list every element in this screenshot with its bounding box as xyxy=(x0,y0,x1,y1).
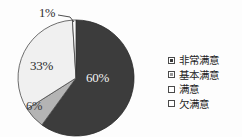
legend-label-less-satisfied: 欠满意 xyxy=(179,99,209,110)
legend-label-basically-satisfied: 基本满意 xyxy=(179,70,219,81)
chart-legend: 非常满意 基本满意 满意 欠满意 xyxy=(168,53,242,111)
legend-item-satisfied[interactable]: 满意 xyxy=(168,82,242,97)
pie-label-less-satisfied: 1% xyxy=(39,6,55,21)
pie-chart-plot-area: 60% 33% 6% 1% xyxy=(0,0,160,137)
legend-label-satisfied: 满意 xyxy=(179,84,199,95)
pie-chart-figure: 60% 33% 6% 1% 非常满意 基本满意 满意 欠满意 xyxy=(0,0,242,137)
legend-item-very-satisfied[interactable]: 非常满意 xyxy=(168,53,242,68)
pie-chart-svg xyxy=(0,0,160,137)
legend-swatch-icon-less-satisfied xyxy=(168,100,175,107)
legend-item-less-satisfied[interactable]: 欠满意 xyxy=(168,97,242,112)
legend-item-basically-satisfied[interactable]: 基本满意 xyxy=(168,68,242,83)
legend-swatch-icon-very-satisfied xyxy=(168,57,175,64)
pie-label-satisfied: 33% xyxy=(30,58,53,74)
pie-label-basically-satisfied: 6% xyxy=(26,99,42,114)
legend-swatch-icon-basically-satisfied xyxy=(168,71,175,78)
legend-swatch-icon-satisfied xyxy=(168,86,175,93)
legend-label-very-satisfied: 非常满意 xyxy=(179,55,219,66)
pie-label-very-satisfied: 60% xyxy=(86,70,109,86)
